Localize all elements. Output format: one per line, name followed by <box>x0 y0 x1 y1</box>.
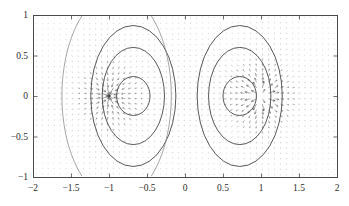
field-arrow <box>286 87 289 88</box>
field-arrow <box>286 54 287 55</box>
field-arrow <box>292 104 294 105</box>
field-arrow <box>112 111 113 115</box>
field-arrow <box>322 142 323 143</box>
field-arrow <box>148 45 149 46</box>
field-arrow <box>322 49 323 50</box>
field-arrow <box>137 18 138 19</box>
field-arrow <box>66 120 67 121</box>
field-arrow <box>328 33 329 34</box>
field-arrow <box>135 103 137 104</box>
field-arrow <box>230 98 233 99</box>
field-arrow <box>274 115 276 118</box>
field-arrow <box>219 131 220 132</box>
field-arrow <box>249 69 250 72</box>
field-arrow <box>244 153 245 154</box>
field-arrow <box>286 110 288 111</box>
field-arrow <box>66 45 67 46</box>
field-arrow <box>90 118 92 120</box>
field-arrow <box>274 59 275 61</box>
field-arrow <box>124 124 125 126</box>
field-arrow <box>328 55 329 56</box>
field-arrow <box>232 137 233 138</box>
field-arrow <box>298 60 299 61</box>
field-arrow <box>78 83 80 84</box>
field-arrow <box>304 55 305 56</box>
field-arrow <box>244 158 245 159</box>
field-arrow <box>142 163 143 164</box>
field-arrow <box>147 77 149 78</box>
field-arrow <box>310 77 311 78</box>
field-arrow <box>60 34 61 35</box>
field-arrow <box>334 33 335 34</box>
field-arrow <box>328 169 329 170</box>
field-arrow <box>66 125 67 126</box>
field-arrow <box>119 50 120 52</box>
field-arrow <box>304 110 306 111</box>
field-arrow <box>137 23 138 24</box>
field-arrow <box>48 66 49 67</box>
field-arrow <box>148 163 149 164</box>
field-arrow <box>310 33 311 34</box>
field-arrow <box>250 126 251 128</box>
field-arrow <box>304 44 305 45</box>
field-arrow <box>66 29 67 30</box>
field-arrow <box>142 157 143 158</box>
field-arrow <box>207 131 208 132</box>
field-arrow <box>128 98 131 99</box>
field-arrow <box>129 83 131 84</box>
field-arrow <box>274 75 276 78</box>
field-arrow <box>236 110 238 111</box>
field-arrow <box>304 120 305 121</box>
field-arrow <box>244 22 245 23</box>
field-arrow <box>334 22 335 23</box>
field-arrow <box>154 45 155 46</box>
field-arrow <box>214 174 215 175</box>
field-arrow <box>125 146 126 147</box>
field-arrow <box>36 168 37 169</box>
field-arrow <box>304 49 305 50</box>
field-arrow <box>137 163 138 164</box>
field-arrow <box>84 141 85 142</box>
field-arrow <box>280 54 281 56</box>
field-arrow <box>130 66 131 68</box>
field-arrow <box>220 169 221 170</box>
field-arrow <box>292 115 294 116</box>
field-arrow <box>72 39 73 40</box>
field-arrow <box>316 137 317 138</box>
field-arrow <box>316 17 317 18</box>
field-arrow <box>232 22 233 23</box>
field-arrow <box>137 34 138 35</box>
field-arrow <box>60 141 61 142</box>
field-arrow <box>72 66 73 67</box>
field-arrow <box>60 114 61 115</box>
field-arrow <box>298 158 299 159</box>
field-arrow <box>136 72 138 73</box>
field-arrow <box>113 66 114 69</box>
field-arrow <box>84 61 85 62</box>
field-arrow <box>142 72 144 73</box>
field-arrow <box>130 50 131 51</box>
field-arrow <box>84 66 85 68</box>
field-arrow <box>48 61 49 62</box>
field-arrow <box>90 140 91 142</box>
field-arrow <box>154 23 155 24</box>
field-arrow <box>286 65 287 67</box>
field-arrow <box>60 168 61 169</box>
field-arrow <box>54 157 55 158</box>
field-arrow <box>102 72 103 75</box>
field-arrow <box>119 56 120 58</box>
field-arrow <box>148 146 149 147</box>
field-arrow <box>292 65 293 66</box>
field-arrow <box>230 110 232 111</box>
field-arrow <box>214 49 215 50</box>
field-arrow <box>124 72 126 74</box>
field-arrow <box>84 93 87 94</box>
field-arrow <box>316 126 317 127</box>
field-arrow <box>60 157 61 158</box>
field-arrow <box>292 44 293 45</box>
field-arrow <box>286 131 287 132</box>
field-arrow <box>60 163 61 164</box>
field-arrow <box>90 113 92 115</box>
field-arrow <box>243 70 245 72</box>
field-arrow <box>84 135 85 136</box>
